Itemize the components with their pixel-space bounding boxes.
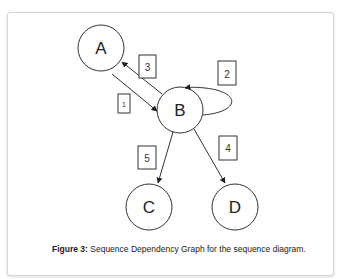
- svg-text:5: 5: [144, 153, 150, 164]
- svg-text:1: 1: [122, 101, 126, 108]
- caption-label: Figure 3:: [52, 244, 88, 254]
- edge-b-to-c: 5: [138, 132, 173, 183]
- svg-text:4: 4: [225, 143, 231, 154]
- edge-a-to-b: 1: [112, 74, 157, 113]
- svg-text:2: 2: [224, 69, 230, 80]
- edge-b-to-a: 3: [122, 55, 162, 94]
- caption-text: Sequence Dependency Graph for the sequen…: [88, 244, 306, 254]
- node-a: A: [78, 25, 124, 71]
- svg-text:3: 3: [145, 62, 151, 73]
- svg-text:D: D: [229, 198, 241, 217]
- svg-text:C: C: [143, 198, 155, 217]
- svg-text:A: A: [95, 39, 107, 58]
- figure-caption: Figure 3: Sequence Dependency Graph for …: [52, 244, 312, 255]
- node-b: B: [157, 87, 203, 133]
- node-c: C: [126, 184, 172, 230]
- node-d: D: [212, 184, 258, 230]
- dependency-graph: A B C D 1 3 2 5 4: [0, 0, 340, 279]
- edge-b-to-d: 4: [194, 129, 237, 183]
- svg-text:B: B: [174, 101, 185, 120]
